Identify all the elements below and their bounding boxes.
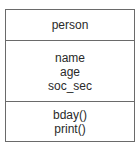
divider (6, 40, 134, 41)
operation: bday() (6, 108, 134, 122)
class-name-section: person (6, 10, 134, 40)
attributes-section: name age soc_sec (6, 51, 134, 93)
attribute: age (6, 65, 134, 79)
operation: print() (6, 122, 134, 136)
attribute: name (6, 51, 134, 65)
operations-section: bday() print() (6, 108, 134, 136)
divider (6, 101, 134, 102)
uml-class-box: person name age soc_sec bday() print() (5, 9, 135, 142)
class-name: person (52, 18, 89, 32)
attribute: soc_sec (6, 79, 134, 93)
